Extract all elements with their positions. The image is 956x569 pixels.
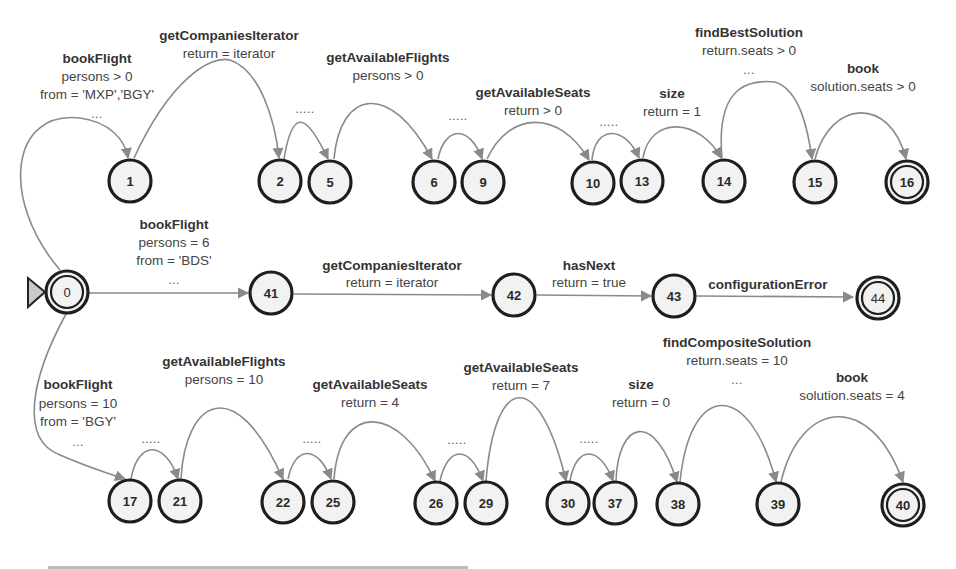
state-node-41[interactable]: 41: [250, 272, 292, 314]
label-getAvailableFlights-top: getAvailableFlights persons > 0: [326, 50, 449, 83]
state-node-42[interactable]: 42: [493, 274, 535, 316]
svg-text:persons > 0: persons > 0: [62, 69, 133, 84]
label-findBestSolution: findBestSolution return.seats > 0 ...: [695, 25, 803, 77]
state-node-22[interactable]: 22: [262, 481, 304, 523]
state-node-6[interactable]: 6: [413, 161, 455, 203]
label-dots-30-37: .....: [579, 432, 598, 446]
svg-text:...: ...: [731, 373, 743, 387]
state-node-29[interactable]: 29: [465, 482, 507, 524]
svg-text:15: 15: [808, 175, 822, 190]
state-node-10[interactable]: 10: [572, 162, 614, 204]
svg-text:getCompaniesIterator: getCompaniesIterator: [322, 258, 462, 273]
svg-text:...: ...: [91, 107, 103, 121]
svg-text:1: 1: [126, 174, 133, 189]
state-node-9[interactable]: 9: [462, 161, 504, 203]
edge-25-26: [334, 422, 435, 481]
edge-13-14: [643, 127, 721, 158]
label-dots-17-21: .....: [141, 432, 160, 446]
svg-text:29: 29: [479, 496, 493, 511]
label-dots-6-9: .....: [448, 109, 467, 123]
state-node-21[interactable]: 21: [159, 480, 201, 522]
edge-9-10: [487, 122, 589, 160]
label-getAvailableSeats-bottom-b: getAvailableSeats return = 7: [463, 360, 578, 393]
svg-text:9: 9: [479, 175, 486, 190]
svg-text:from = 'BDS': from = 'BDS': [136, 253, 211, 268]
svg-text:38: 38: [671, 497, 685, 512]
state-node-30[interactable]: 30: [547, 482, 589, 524]
edge-30-37: [570, 454, 613, 481]
svg-text:return = iterator: return = iterator: [183, 46, 276, 61]
svg-text:...: ...: [168, 273, 180, 287]
edge-41-42: [294, 294, 491, 295]
svg-text:0: 0: [63, 285, 70, 300]
state-node-39[interactable]: 39: [757, 483, 799, 525]
edge-10-13: [592, 133, 639, 160]
svg-text:13: 13: [635, 174, 649, 189]
label-size-bottom: size return = 0: [612, 377, 670, 410]
state-node-15[interactable]: 15: [794, 161, 836, 203]
svg-text:persons = 10: persons = 10: [185, 372, 263, 387]
svg-text:solution.seats > 0: solution.seats > 0: [810, 79, 915, 94]
state-node-26[interactable]: 26: [415, 482, 457, 524]
edge-22-25: [288, 454, 331, 480]
edge-15-16: [815, 113, 906, 159]
svg-text:configurationError: configurationError: [708, 277, 828, 292]
label-dots-22-25: .....: [302, 432, 321, 446]
edge-37-38: [616, 432, 677, 482]
svg-text:return = 7: return = 7: [492, 378, 550, 393]
state-node-40-final[interactable]: 40: [882, 484, 924, 526]
state-node-0[interactable]: 0: [46, 271, 88, 313]
edge-1-2: [134, 59, 279, 158]
state-node-44-final[interactable]: 44: [857, 277, 899, 319]
state-node-5[interactable]: 5: [309, 161, 351, 203]
state-node-25[interactable]: 25: [312, 481, 354, 523]
state-node-13[interactable]: 13: [621, 160, 663, 202]
label-getAvailableSeats-bottom-a: getAvailableSeats return = 4: [312, 377, 427, 410]
label-getAvailableFlights-bottom: getAvailableFlights persons = 10: [162, 354, 285, 387]
state-node-17[interactable]: 17: [109, 480, 151, 522]
state-node-1[interactable]: 1: [109, 160, 151, 202]
svg-text:...: ...: [72, 435, 84, 449]
svg-text:42: 42: [507, 288, 521, 303]
label-book-top: book solution.seats > 0: [810, 61, 915, 94]
state-node-14[interactable]: 14: [703, 160, 745, 202]
svg-text:findBestSolution: findBestSolution: [695, 25, 803, 40]
label-dots-2-5: .....: [295, 102, 314, 116]
label-bookFlight-top: bookFlight persons > 0 from = 'MXP','BGY…: [40, 51, 154, 121]
state-node-43[interactable]: 43: [653, 275, 695, 317]
edge-38-39: [680, 406, 776, 483]
svg-text:return = 1: return = 1: [643, 104, 701, 119]
svg-text:bookFlight: bookFlight: [63, 51, 132, 66]
svg-text:solution.seats = 4: solution.seats = 4: [799, 388, 905, 403]
state-node-16-final[interactable]: 16: [886, 161, 928, 203]
svg-text:40: 40: [896, 498, 910, 513]
edge-26-29: [440, 454, 483, 481]
svg-text:21: 21: [173, 494, 187, 509]
svg-text:bookFlight: bookFlight: [44, 377, 113, 392]
svg-text:44: 44: [871, 291, 885, 306]
edge-21-22: [181, 408, 283, 479]
label-getCompaniesIterator-middle: getCompaniesIterator return = iterator: [322, 258, 462, 290]
edge-labels-top: bookFlight persons > 0 from = 'MXP','BGY…: [40, 25, 916, 129]
svg-text:return.seats > 0: return.seats > 0: [702, 43, 796, 58]
svg-text:return > 0: return > 0: [504, 103, 562, 118]
edge-17-21: [131, 450, 178, 479]
svg-text:37: 37: [608, 496, 622, 511]
label-dots-26-29: .....: [447, 433, 466, 447]
svg-text:getAvailableSeats: getAvailableSeats: [312, 377, 427, 392]
state-node-38[interactable]: 38: [657, 483, 699, 525]
label-findCompositeSolution: findCompositeSolution return.seats = 10 …: [663, 335, 811, 387]
edge-43-44: [697, 296, 853, 297]
edge-6-9: [438, 134, 482, 160]
svg-text:bookFlight: bookFlight: [140, 217, 209, 232]
svg-text:30: 30: [561, 496, 575, 511]
edge-labels-bottom: bookFlight persons = 10 from = 'BGY' ...…: [39, 335, 905, 449]
state-node-2[interactable]: 2: [259, 160, 301, 202]
svg-text:persons > 0: persons > 0: [353, 68, 424, 83]
svg-text:findCompositeSolution: findCompositeSolution: [663, 335, 811, 350]
state-node-37[interactable]: 37: [594, 482, 636, 524]
svg-text:return = iterator: return = iterator: [346, 275, 439, 290]
svg-text:book: book: [847, 61, 880, 76]
svg-text:persons = 6: persons = 6: [139, 235, 210, 250]
label-hasNext: hasNext return = true: [552, 258, 626, 290]
